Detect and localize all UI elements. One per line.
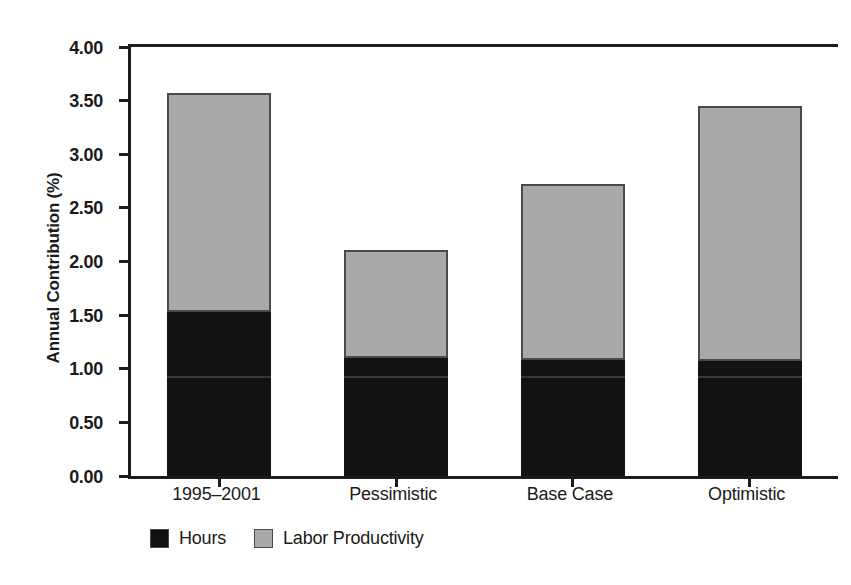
stacked-bar-chart: Annual Contribution (%) 4.003.503.002.50…	[0, 0, 851, 585]
legend-item: Hours	[150, 528, 226, 549]
legend-swatch-icon	[150, 529, 169, 548]
x-axis-label: Pessimistic	[349, 484, 437, 505]
y-axis-tick-label: 1.50	[69, 306, 103, 327]
bars-layer	[131, 47, 838, 476]
bar-segment-hours	[167, 312, 271, 476]
y-axis-tick: 0.50	[119, 421, 131, 424]
y-axis-tick-label: 2.50	[69, 198, 103, 219]
y-axis-tick: 3.00	[119, 153, 131, 156]
y-axis-tick: 2.00	[119, 260, 131, 263]
bar-segment-labor-productivity	[344, 250, 448, 358]
x-axis-label: 1995–2001	[172, 484, 260, 505]
bar-group	[698, 47, 802, 476]
bar-segment-labor-productivity	[167, 93, 271, 312]
bar-segment-hours	[344, 358, 448, 476]
y-axis-tick-label: 0.00	[69, 467, 103, 488]
bar-segment-labor-productivity	[698, 106, 802, 361]
bar-segment-labor-productivity	[521, 184, 625, 360]
y-axis-tick: 1.50	[119, 314, 131, 317]
bar-segment-hours	[698, 361, 802, 476]
bar-segment-hours	[521, 360, 625, 476]
legend-label: Hours	[179, 528, 226, 549]
x-axis-labels: 1995–2001PessimisticBase CaseOptimistic	[128, 484, 835, 512]
y-axis-tick: 3.50	[119, 99, 131, 102]
y-axis-tick: 1.00	[119, 367, 131, 370]
x-axis-label: Base Case	[527, 484, 613, 505]
y-axis-tick: 0.00	[119, 475, 131, 478]
chart-legend: HoursLabor Productivity	[128, 528, 851, 549]
legend-label: Labor Productivity	[283, 528, 423, 549]
plot-area: 4.003.503.002.502.001.501.000.500.00	[128, 44, 838, 479]
legend-swatch-icon	[254, 529, 273, 548]
y-axis-tick-label: 3.50	[69, 91, 103, 112]
x-axis-label: Optimistic	[708, 484, 785, 505]
bar-group	[167, 47, 271, 476]
y-axis-tick-label: 0.50	[69, 413, 103, 434]
y-axis-tick: 2.50	[119, 206, 131, 209]
y-axis-tick-label: 2.00	[69, 252, 103, 273]
y-axis-tick: 4.00	[119, 46, 131, 49]
bar-group	[344, 47, 448, 476]
y-axis-tick-label: 4.00	[69, 38, 103, 59]
y-axis-tick-label: 1.00	[69, 359, 103, 380]
legend-item: Labor Productivity	[254, 528, 423, 549]
bar-group	[521, 47, 625, 476]
y-axis-title: Annual Contribution (%)	[44, 118, 64, 418]
y-axis-tick-label: 3.00	[69, 145, 103, 166]
